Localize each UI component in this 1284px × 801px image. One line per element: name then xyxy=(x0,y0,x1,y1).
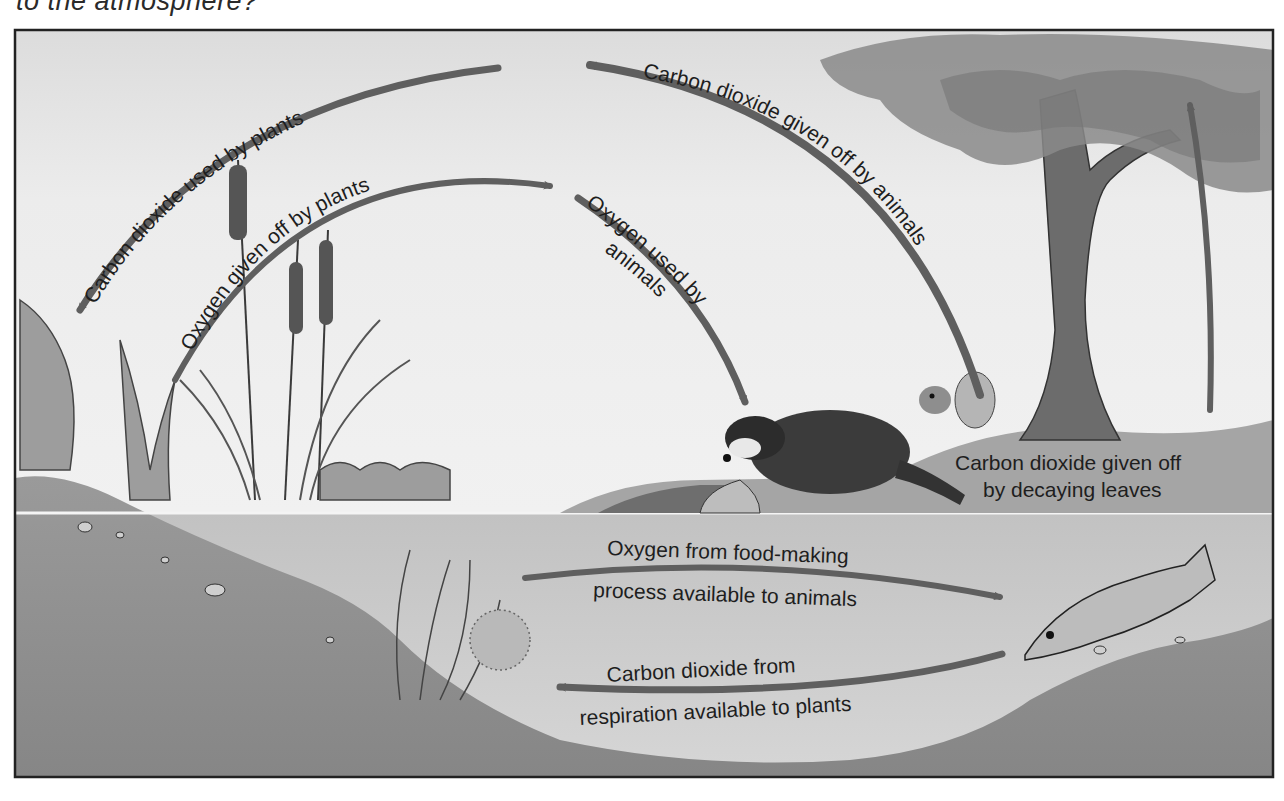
label-co2-decaying-leaves-1: Carbon dioxide given off xyxy=(955,451,1181,474)
pond-cycle-diagram: Carbon dioxide used by plants Oxygen giv… xyxy=(0,0,1284,801)
label-co2-decaying-leaves-2: by decaying leaves xyxy=(983,478,1162,501)
